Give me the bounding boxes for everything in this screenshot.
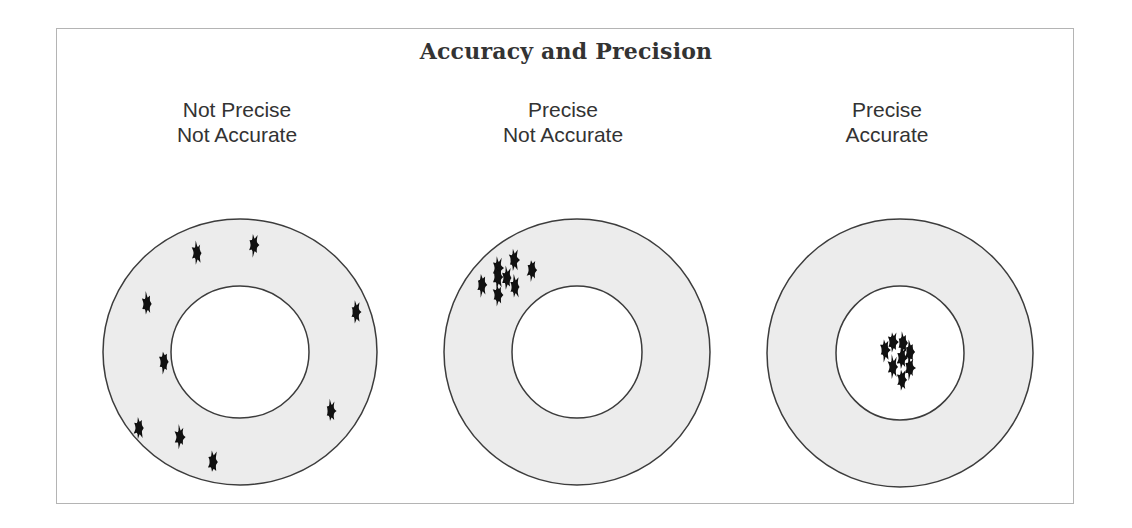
bullet-hole-core [495, 289, 502, 302]
bullseye [512, 286, 642, 418]
bullet-hole-core [899, 352, 906, 365]
bullseye [171, 286, 309, 418]
bullet-hole-core [899, 374, 906, 387]
bullet-hole-core [161, 356, 168, 369]
bullet-hole-core [529, 264, 536, 277]
target-precise-not-accurate [444, 219, 710, 485]
bullet-hole-core [251, 239, 258, 252]
bullet-hole-core [353, 306, 360, 319]
bullet-hole-core [495, 271, 502, 284]
bullet-hole-core [194, 247, 201, 260]
bullet-hole-core [504, 272, 511, 285]
target-not-precise-not-accurate [103, 219, 377, 485]
bullet-hole-core [511, 254, 518, 267]
bullet-hole-core [890, 336, 897, 349]
target-precise-accurate [767, 219, 1033, 487]
bullet-hole-core [907, 362, 914, 375]
targets-canvas [0, 0, 1132, 528]
bullet-hole-core [900, 337, 907, 350]
bullet-hole-core [882, 344, 889, 357]
bullet-hole-core [907, 346, 914, 359]
bullet-hole-core [177, 431, 184, 444]
bullet-hole-core [512, 281, 519, 294]
bullet-hole-core [328, 405, 335, 418]
bullet-hole-core [890, 361, 897, 374]
bullet-hole-core [144, 298, 151, 311]
bullet-hole-core [210, 456, 217, 469]
bullet-hole-core [479, 279, 486, 292]
bullet-hole-core [136, 422, 143, 435]
